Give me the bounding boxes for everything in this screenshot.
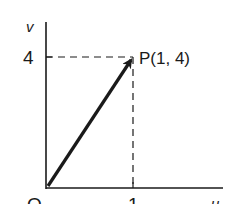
x-tick-label: 1 xyxy=(128,194,139,204)
vector-arrow xyxy=(48,60,131,186)
u-axis-label: u xyxy=(211,195,220,204)
v-axis-label: v xyxy=(26,18,35,35)
y-tick-label: 4 xyxy=(23,47,34,68)
origin-label: O xyxy=(27,194,42,204)
point-label: P(1, 4) xyxy=(139,49,190,68)
vector-diagram: v 4 P(1, 4) O 1 u xyxy=(0,0,227,204)
diagram-svg: v 4 P(1, 4) O 1 u xyxy=(0,0,227,204)
